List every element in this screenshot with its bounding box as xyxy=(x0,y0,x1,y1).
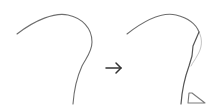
original-curve xyxy=(17,14,92,104)
arrow-right-icon xyxy=(106,63,121,73)
modified-curve-top xyxy=(127,14,199,34)
diagram-canvas xyxy=(0,0,219,112)
triangle-marker-icon xyxy=(188,93,205,103)
